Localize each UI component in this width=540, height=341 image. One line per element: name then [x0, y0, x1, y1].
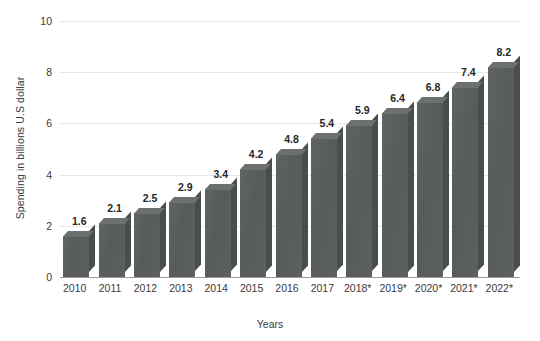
bar-top-face: [311, 133, 342, 139]
bar-value-label: 4.8: [268, 133, 316, 145]
bar-front-face: [382, 113, 408, 277]
bar-top-face: [205, 184, 236, 190]
y-tick-label-8: 8: [30, 67, 52, 78]
bar-value-label: 5.9: [338, 104, 386, 116]
bar-top-face: [382, 108, 413, 114]
bar-value-label: 4.2: [232, 148, 280, 160]
x-tick-label-2012: 2012: [128, 281, 163, 295]
bar-2012[interactable]: 2.5: [134, 213, 160, 277]
bar-value-label: 3.4: [197, 168, 245, 180]
bar-side-face: [195, 191, 201, 271]
bar-side-face: [302, 143, 308, 272]
bar-front-face: [311, 139, 337, 277]
bar-front-face: [276, 154, 302, 277]
x-tick-label-2018-est: 2018*: [340, 281, 375, 295]
y-axis-tick-labels: 0246810: [22, 0, 52, 341]
bar-top-face: [240, 164, 271, 170]
bar-side-face: [443, 92, 449, 272]
bar-2018*[interactable]: 5.9: [346, 126, 372, 277]
bar-2013[interactable]: 2.9: [169, 203, 195, 277]
x-tick-label-2019-est: 2019*: [375, 281, 410, 295]
bar-top-face: [276, 149, 307, 155]
bar-side-face: [372, 115, 378, 272]
bar-chart: Spending in billions U.S dollar 0246810 …: [0, 0, 540, 341]
bar-value-label: 8.2: [480, 46, 528, 58]
x-tick-label-2022-est: 2022*: [482, 281, 517, 295]
bar-side-face: [514, 56, 520, 272]
y-tick-label-10: 10: [30, 16, 52, 27]
y-tick-label-4: 4: [30, 169, 52, 180]
bar-2014[interactable]: 3.4: [205, 190, 231, 277]
bar-front-face: [346, 126, 372, 277]
bar-front-face: [205, 190, 231, 277]
bar-value-label: 1.6: [55, 215, 103, 227]
x-tick-label-2015: 2015: [234, 281, 269, 295]
bar-side-face: [408, 102, 414, 272]
bar-front-face: [417, 103, 443, 277]
bar-2022*[interactable]: 8.2: [488, 67, 514, 277]
bar-2010[interactable]: 1.6: [63, 236, 89, 277]
bar-top-face: [63, 231, 94, 237]
y-tick-label-0: 0: [30, 272, 52, 283]
x-tick-label-2013: 2013: [163, 281, 198, 295]
bar-top-face: [488, 62, 519, 68]
bar-value-label: 7.4: [444, 66, 492, 78]
bar-value-label: 6.8: [409, 81, 457, 93]
x-tick-label-2014: 2014: [199, 281, 234, 295]
x-tick-label-2016: 2016: [269, 281, 304, 295]
bar-top-face: [417, 97, 448, 103]
x-tick-label-2010: 2010: [57, 281, 92, 295]
bar-front-face: [169, 203, 195, 277]
axis-baseline: [60, 277, 520, 278]
bar-front-face: [99, 223, 125, 277]
bar-2021*[interactable]: 7.4: [452, 88, 478, 277]
bar-value-label: 6.4: [374, 92, 422, 104]
bar-value-label: 5.4: [303, 117, 351, 129]
bar-top-face: [134, 208, 165, 214]
bar-side-face: [266, 158, 272, 271]
bar-series: 1.62.12.52.93.44.24.85.45.96.46.87.48.2: [60, 21, 520, 277]
x-axis-title: Years: [0, 317, 540, 331]
y-tick-label-6: 6: [30, 118, 52, 129]
bar-2015[interactable]: 4.2: [240, 169, 266, 277]
x-tick-label-2017: 2017: [305, 281, 340, 295]
x-axis-tick-labels: 201020112012201320142015201620172018*201…: [60, 281, 520, 297]
bar-value-label: 2.9: [161, 181, 209, 193]
bar-front-face: [63, 236, 89, 277]
bar-top-face: [99, 218, 130, 224]
bar-front-face: [134, 213, 160, 277]
bar-2017[interactable]: 5.4: [311, 139, 337, 277]
bar-value-label: 2.5: [126, 192, 174, 204]
bar-2020*[interactable]: 6.8: [417, 103, 443, 277]
bar-front-face: [240, 169, 266, 277]
bar-2016[interactable]: 4.8: [276, 154, 302, 277]
bar-front-face: [452, 88, 478, 277]
x-tick-label-2021-est: 2021*: [446, 281, 481, 295]
plot-area: 1.62.12.52.93.44.24.85.45.96.46.87.48.2: [60, 21, 520, 277]
bar-side-face: [231, 179, 237, 272]
bar-front-face: [488, 67, 514, 277]
bar-2011[interactable]: 2.1: [99, 223, 125, 277]
bar-side-face: [337, 127, 343, 271]
bar-side-face: [478, 76, 484, 271]
bar-2019*[interactable]: 6.4: [382, 113, 408, 277]
bar-value-label: 2.1: [91, 202, 139, 214]
y-tick-label-2: 2: [30, 220, 52, 231]
x-tick-label-2011: 2011: [92, 281, 127, 295]
x-tick-label-2020-est: 2020*: [411, 281, 446, 295]
